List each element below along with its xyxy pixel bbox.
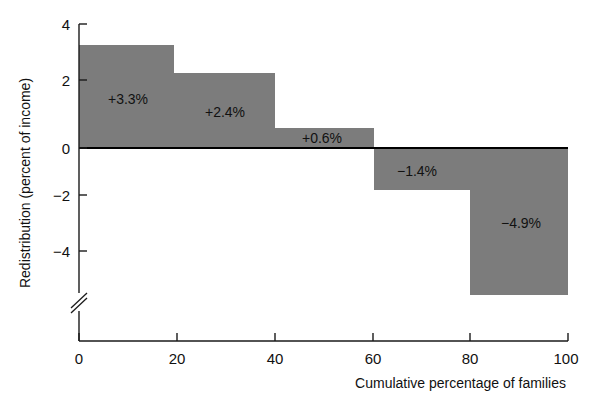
y-tick-label-minus4: −4 bbox=[53, 243, 70, 260]
bar-label-20-40: +2.4% bbox=[205, 104, 245, 120]
x-axis-title: Cumulative percentage of families bbox=[355, 375, 566, 391]
y-tick-label-0: 0 bbox=[62, 140, 70, 157]
bar-label-0-20: +3.3% bbox=[108, 91, 148, 107]
y-tick-label-4: 4 bbox=[62, 16, 70, 33]
y-axis-break-icon bbox=[71, 293, 87, 313]
y-tick-label-2: 2 bbox=[62, 72, 70, 89]
x-tick-label-40: 40 bbox=[267, 350, 284, 367]
bar-label-80-100: −4.9% bbox=[501, 215, 541, 231]
x-tick-label-80: 80 bbox=[462, 350, 479, 367]
x-tick-label-100: 100 bbox=[553, 350, 578, 367]
y-axis-title: Redistribution (percent of income) bbox=[17, 78, 33, 288]
bar-series bbox=[79, 45, 568, 295]
x-axis: 0 20 40 60 80 100 bbox=[75, 333, 579, 367]
x-tick-label-0: 0 bbox=[75, 350, 83, 367]
y-tick-label-minus2: −2 bbox=[53, 187, 70, 204]
x-tick-label-60: 60 bbox=[365, 350, 382, 367]
bar-label-60-80: −1.4% bbox=[397, 163, 437, 179]
chart-figure: 4 2 0 −2 −4 0 20 40 60 80 bbox=[0, 0, 591, 401]
x-tick-label-20: 20 bbox=[169, 350, 186, 367]
chart-canvas: 4 2 0 −2 −4 0 20 40 60 80 bbox=[0, 0, 591, 401]
bar-label-40-60: +0.6% bbox=[302, 130, 342, 146]
